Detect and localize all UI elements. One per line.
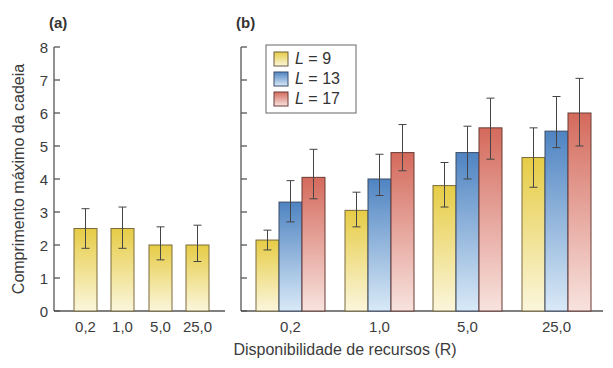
y-tick-label: 5 [40, 138, 48, 155]
bar [368, 179, 391, 311]
y-tick-label: 1 [40, 270, 48, 287]
legend-item-l13: L = 13 [274, 70, 340, 87]
y-tick-label: 4 [40, 171, 48, 188]
panel-a: 0123456780,21,05,025,0 [40, 39, 225, 335]
y-tick-label: 2 [40, 237, 48, 254]
x-tick-label: 1,0 [112, 318, 133, 335]
y-tick-label: 7 [40, 72, 48, 89]
x-tick-label: 0,2 [280, 318, 301, 335]
x-tick-label: 0,2 [75, 318, 96, 335]
x-tick-label: 25,0 [542, 318, 571, 335]
legend-swatch-yellow [274, 52, 288, 66]
x-axis-title: Disponibilidade de recursos (R) [233, 341, 456, 358]
y-tick-label: 6 [40, 105, 48, 122]
legend: L = 9 L = 13 L = 17 [266, 45, 356, 113]
chart-canvas: Comprimento máximo da cadeia (a) (b) 012… [0, 0, 613, 368]
legend-item-l9: L = 9 [274, 50, 331, 67]
panel-a-label: (a) [49, 14, 67, 31]
y-tick-label: 0 [40, 303, 48, 320]
legend-swatch-red [274, 92, 288, 106]
legend-label: L = 13 [295, 70, 340, 87]
x-tick-label: 5,0 [457, 318, 478, 335]
bar [256, 240, 279, 311]
y-tick-label: 8 [40, 39, 48, 56]
legend-label: L = 9 [295, 50, 331, 67]
legend-swatch-blue [274, 72, 288, 86]
y-axis-title: Comprimento máximo da cadeia [10, 64, 27, 294]
legend-item-l17: L = 17 [274, 90, 340, 107]
y-tick-label: 3 [40, 204, 48, 221]
x-tick-label: 5,0 [150, 318, 171, 335]
x-tick-label: 1,0 [369, 318, 390, 335]
legend-label: L = 17 [295, 90, 340, 107]
panel-b-label: (b) [236, 14, 255, 31]
bar [545, 131, 568, 311]
x-tick-label: 25,0 [183, 318, 212, 335]
bar [391, 153, 414, 311]
